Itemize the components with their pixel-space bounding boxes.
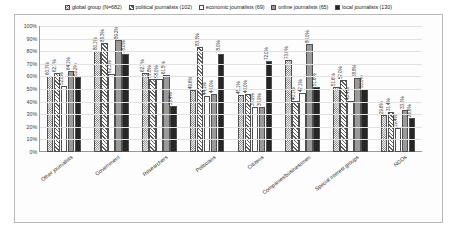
category-label: Citizens (246, 154, 264, 170)
legend-item[interactable]: online journalists (65) (271, 4, 328, 10)
bar[interactable] (197, 47, 203, 152)
bar-value-label: 86.3% (100, 30, 105, 43)
y-axis-tick-label: 60% (27, 73, 37, 79)
bar[interactable] (409, 118, 415, 152)
bar[interactable] (313, 87, 319, 152)
bar-value-label: 62.7% (140, 59, 145, 72)
legend-swatch-icon (271, 5, 276, 10)
bar[interactable] (381, 115, 387, 152)
category-label: Companies/businessmen (261, 154, 312, 195)
legend-item[interactable]: political journalists (102) (129, 4, 192, 10)
bar[interactable] (204, 96, 210, 152)
gridline (40, 139, 422, 140)
bar[interactable] (285, 60, 291, 152)
y-axis-tick-label: 100% (24, 23, 37, 29)
bar[interactable] (361, 89, 367, 152)
category-labels: Other journalistsGovernmentResearchersPo… (40, 154, 422, 214)
category-label: Researchers (141, 154, 168, 177)
gridline (40, 26, 422, 27)
bar[interactable] (211, 94, 217, 152)
bar-value-label: 58.8% (352, 64, 357, 77)
bar-value-label: 19.4% (393, 114, 398, 127)
bar[interactable] (218, 54, 224, 152)
bar-value-label: 51.6% (312, 73, 317, 86)
category-label: Government (94, 154, 121, 177)
bar-value-label: 35.9% (257, 93, 262, 106)
bar-value-label: 83.3% (195, 34, 200, 47)
gridline (40, 102, 422, 103)
legend-item[interactable]: local journalists (130) (335, 4, 392, 10)
bar-value-label: 62.3% (107, 60, 112, 73)
chart-screenshot: global group (N=682)political journalist… (0, 0, 457, 237)
y-axis-tick-label: 70% (27, 61, 37, 67)
y-axis-tick-label: 90% (27, 36, 37, 42)
gridline (40, 89, 422, 90)
category-label: Politicians (194, 154, 216, 173)
legend-swatch-icon (129, 5, 134, 10)
bar[interactable] (115, 40, 121, 152)
bar[interactable] (149, 79, 155, 152)
bar[interactable] (306, 44, 312, 152)
bar-value-label: 89.2% (114, 26, 119, 39)
category-label: Special interest groups (314, 154, 360, 192)
plot-area: 60.7%62.7%52.0%64.1%59.2%80.1%86.3%62.3%… (40, 26, 422, 152)
gridline (40, 51, 422, 52)
legend-label: political journalists (102) (135, 4, 191, 10)
bar[interactable] (190, 90, 196, 152)
bar-value-label: 62.7% (52, 59, 57, 72)
bar-value-label: 46.0% (243, 81, 248, 94)
bar[interactable] (238, 95, 244, 152)
y-axis-tick-label: 20% (27, 124, 37, 130)
gridline (40, 64, 422, 65)
category-label: NGOs (392, 154, 407, 168)
bar-value-label: 45.1% (236, 82, 241, 95)
bar-value-label: 72.0% (264, 48, 269, 61)
bar[interactable] (266, 61, 272, 152)
bar-value-label: 35.9% (250, 93, 255, 106)
bar-value-label: 59.2% (73, 64, 78, 77)
gridline (40, 76, 422, 77)
bar-value-label: 46.0% (209, 81, 214, 94)
bar[interactable] (122, 54, 128, 152)
bar[interactable] (170, 106, 176, 152)
bar-value-label: 26.6% (407, 105, 412, 118)
y-axis-tick-label: 0% (30, 149, 38, 155)
y-axis-tick-label: 80% (27, 48, 37, 54)
bar-value-label: 36.4% (168, 93, 173, 106)
y-axis-tick-label: 10% (27, 136, 37, 142)
bar[interactable] (333, 87, 339, 152)
bar-value-label: 51.6% (331, 73, 336, 86)
legend-label: economic journalists (69) (206, 4, 265, 10)
legend-label: global group (N=682) (72, 4, 122, 10)
legend-item[interactable]: economic journalists (69) (199, 4, 264, 10)
gridline (40, 114, 422, 115)
gridline (40, 127, 422, 128)
y-axis-tick-label: 50% (27, 86, 37, 92)
legend-label: local journalists (130) (342, 4, 392, 10)
legend-swatch-icon (335, 5, 340, 10)
bar-value-label: 52.0% (59, 73, 64, 86)
gridline (40, 39, 422, 40)
y-axis-tick-label: 30% (27, 111, 37, 117)
bar-value-label: 73.0% (284, 47, 289, 60)
category-label: Other journalists (39, 154, 73, 182)
bar-value-label: 86.0% (305, 30, 310, 43)
bar-value-label: 29.6% (379, 101, 384, 114)
y-axis-tick-label: 40% (27, 99, 37, 105)
legend-item[interactable]: global group (N=682) (65, 4, 122, 10)
bar-value-label: 49.6% (188, 76, 193, 89)
bar[interactable] (61, 86, 67, 152)
legend-label: online journalists (65) (278, 4, 328, 10)
legend-swatch-icon (65, 5, 70, 10)
chart-legend: global group (N=682)political journalist… (0, 4, 457, 10)
legend-swatch-icon (199, 5, 204, 10)
